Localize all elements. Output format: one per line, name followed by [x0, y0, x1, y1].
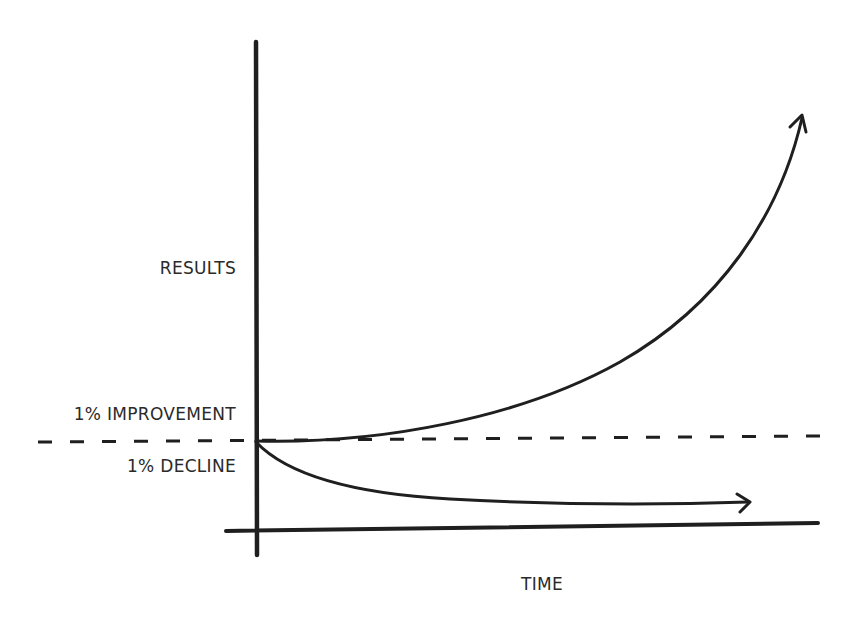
decline-curve [256, 442, 748, 504]
y-axis-line [256, 42, 257, 555]
y-axis-label: RESULTS [160, 258, 236, 278]
chart-canvas [0, 0, 867, 627]
chart: RESULTS 1% IMPROVEMENT 1% DECLINE TIME [0, 0, 867, 627]
x-axis-line [226, 523, 818, 531]
x-axis-label: TIME [521, 574, 563, 594]
baseline-dashed-line [38, 436, 822, 442]
improvement-label: 1% IMPROVEMENT [74, 404, 236, 424]
improvement-curve [256, 118, 802, 441]
decline-label: 1% DECLINE [127, 456, 236, 476]
